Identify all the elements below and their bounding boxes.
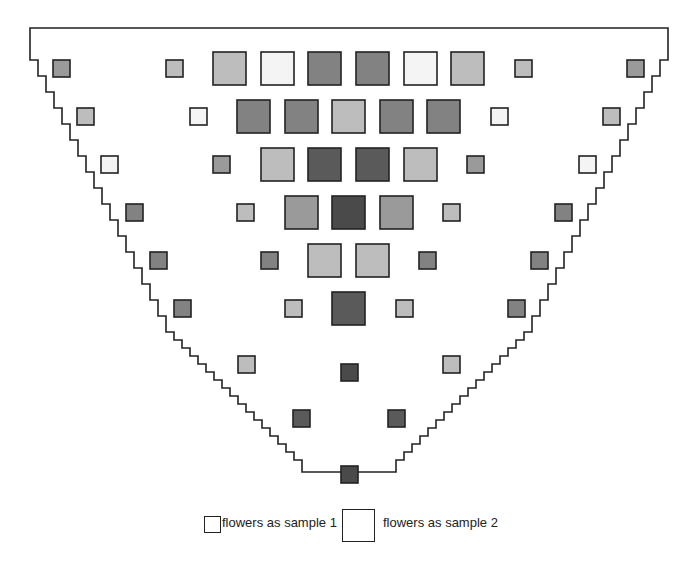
flower-square-small — [261, 252, 278, 269]
flower-square-large — [261, 148, 294, 181]
flower-square-small — [237, 204, 254, 221]
triangle-diagram — [0, 0, 693, 568]
flower-square-large — [380, 100, 413, 133]
legend-swatch-sample-2 — [342, 509, 375, 542]
legend-label-sample-1: flowers as sample 1 — [222, 515, 337, 530]
flower-square-small — [341, 466, 358, 483]
flower-square-small — [238, 356, 255, 373]
flower-square-large — [332, 100, 365, 133]
flower-square-large — [356, 52, 389, 85]
legend-swatch-sample-1 — [204, 516, 221, 533]
flower-square-small — [174, 300, 191, 317]
flower-square-large — [237, 100, 270, 133]
flower-square-large — [285, 100, 318, 133]
flower-square-small — [508, 300, 525, 317]
flower-square-small — [53, 60, 70, 77]
flower-square-large — [356, 148, 389, 181]
flower-square-small — [627, 60, 644, 77]
flower-square-large — [427, 100, 460, 133]
flower-square-small — [515, 60, 532, 77]
flower-square-small — [388, 410, 405, 427]
flower-square-small — [396, 300, 413, 317]
legend-label-sample-2: flowers as sample 2 — [383, 515, 498, 530]
flower-square-small — [77, 108, 94, 125]
flower-square-small — [166, 60, 183, 77]
flower-square-small — [467, 156, 484, 173]
flower-square-large — [404, 52, 437, 85]
flower-square-large — [213, 52, 246, 85]
flower-square-small — [213, 156, 230, 173]
flower-square-small — [150, 252, 167, 269]
flower-square-small — [491, 108, 508, 125]
flower-square-small — [285, 300, 302, 317]
flower-square-small — [190, 108, 207, 125]
flower-square-small — [293, 410, 310, 427]
flower-square-small — [341, 364, 358, 381]
flower-square-small — [579, 156, 596, 173]
flower-square-large — [308, 148, 341, 181]
stepped-triangle-outline — [30, 28, 668, 472]
flower-square-large — [451, 52, 484, 85]
flower-square-large — [404, 148, 437, 181]
flower-square-small — [555, 204, 572, 221]
flower-square-large — [380, 196, 413, 229]
flower-square-small — [419, 252, 436, 269]
flower-square-large — [261, 52, 294, 85]
flower-square-large — [332, 292, 365, 325]
flower-square-large — [285, 196, 318, 229]
flower-square-small — [443, 204, 460, 221]
flower-square-large — [308, 52, 341, 85]
flower-square-large — [332, 196, 365, 229]
flower-square-large — [356, 244, 389, 277]
flower-square-large — [308, 244, 341, 277]
flower-square-small — [603, 108, 620, 125]
flower-square-small — [531, 252, 548, 269]
flower-square-small — [443, 356, 460, 373]
flower-square-small — [126, 204, 143, 221]
flower-square-small — [101, 156, 118, 173]
